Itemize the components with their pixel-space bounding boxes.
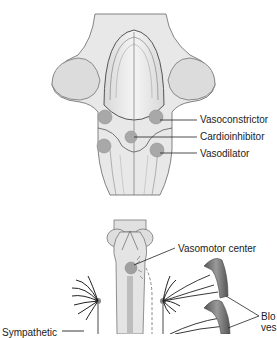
label-vasodilator: Vasodilator <box>200 148 249 159</box>
label-vasoconstrictor: Vasoconstrictor <box>200 114 268 125</box>
label-sympathetic: Sympathetic <box>2 327 57 338</box>
label-cardioinhibitor: Cardioinhibitor <box>200 131 264 142</box>
vasodilator-nucleus-left <box>97 139 111 153</box>
vasomotor-pathway-view <box>62 220 259 334</box>
left-lobe <box>52 58 100 100</box>
vasoconstrictor-nucleus-right <box>149 110 163 124</box>
blood-vessel-lower <box>204 300 230 334</box>
brainstem-top-view <box>52 14 215 195</box>
vasoconstrictor-nucleus-left <box>98 110 112 124</box>
vasomotor-center-nucleus <box>125 262 137 274</box>
left-sympathetic-ganglion <box>72 276 101 334</box>
label-vasomotor-center: Vasomotor center <box>178 243 256 254</box>
label-blood-vessels-line1: Blo <box>261 311 275 322</box>
right-lobe <box>168 58 215 100</box>
label-blood-vessels-line2: ves <box>261 322 277 333</box>
vasodilator-nucleus-right <box>150 143 164 157</box>
